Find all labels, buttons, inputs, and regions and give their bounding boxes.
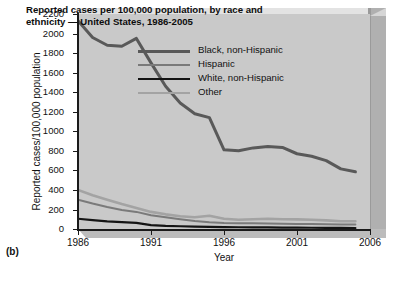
y-tick	[73, 112, 77, 113]
series-line-3	[78, 190, 355, 221]
x-tick-label: 1996	[204, 237, 244, 248]
x-tick	[370, 230, 371, 235]
plot-frame-right-face	[370, 8, 386, 230]
x-tick-label: 2001	[277, 237, 317, 248]
legend-label: White, non-Hispanic	[198, 72, 284, 83]
x-tick	[78, 230, 79, 235]
y-axis-title-wrap: Reported cases/100,000 population	[12, 18, 26, 218]
x-tick-label: 2006	[350, 237, 390, 248]
x-tick	[224, 230, 225, 235]
y-tick	[73, 170, 77, 171]
legend-label: Black, non-Hispanic	[198, 44, 283, 55]
legend-label: Hispanic	[198, 58, 235, 69]
y-tick	[73, 131, 77, 132]
y-axis-title: Reported cases/100,000 population	[31, 32, 42, 232]
y-axis-line	[77, 13, 79, 230]
chart-title-line-2: ethnicity — United States, 1986-2005	[26, 16, 274, 28]
chart-title-line-1: Reported cases per 100,000 population, b…	[26, 4, 274, 16]
y-tick	[73, 190, 77, 191]
legend-swatch	[138, 50, 190, 53]
y-tick	[73, 229, 77, 230]
legend-swatch	[138, 92, 190, 94]
y-tick	[73, 151, 77, 152]
legend-swatch	[138, 78, 190, 80]
y-tick	[73, 34, 77, 35]
x-tick	[151, 230, 152, 235]
y-tick	[73, 73, 77, 74]
legend-label: Other	[198, 86, 222, 97]
y-tick	[73, 53, 77, 54]
y-tick	[73, 210, 77, 211]
x-tick	[297, 230, 298, 235]
legend-swatch	[138, 64, 190, 66]
x-tick-label: 1991	[131, 237, 171, 248]
chart-title: Reported cases per 100,000 population, b…	[26, 4, 274, 27]
figure-letter-label: (b)	[6, 246, 19, 257]
y-tick	[73, 92, 77, 93]
x-axis-title: Year	[78, 252, 370, 263]
x-tick-label: 1986	[58, 237, 98, 248]
figure-panel: 0200400600800100012001400160018002000220…	[0, 0, 408, 282]
